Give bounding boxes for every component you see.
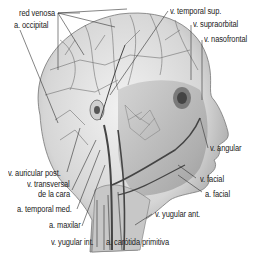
label-v-temporal-sup: v. temporal sup. [170, 6, 221, 16]
label-v-yugular-ant: v. yugular ant. [155, 209, 200, 219]
label-red-venosa: red venosa [19, 8, 55, 18]
label-v-nasofrontal: v. nasofrontal [204, 34, 247, 44]
label-a-carotida-primitiva: a. carótida primitiva [106, 237, 169, 247]
anatomy-diagram: red venosa a. occipital v. temporal sup.… [0, 0, 260, 261]
label-v-transversal-line2: de la cara [38, 189, 70, 199]
label-v-angular: v. angular [210, 143, 241, 153]
label-a-facial: a. facial [205, 189, 230, 199]
label-v-auricular-post: v. auricular post. [8, 168, 61, 178]
label-a-maxilar: a. maxilar [49, 220, 81, 230]
label-a-temporal-med: a. temporal med. [17, 204, 72, 214]
label-v-facial: v. facial [200, 174, 224, 184]
label-a-occipital: a. occipital [14, 20, 48, 30]
label-v-supraorbital: v. supraorbital [193, 19, 238, 29]
label-v-yugular-int: v. yugular int. [51, 237, 94, 247]
label-v-transversal-line1: v. transversal [27, 179, 70, 189]
